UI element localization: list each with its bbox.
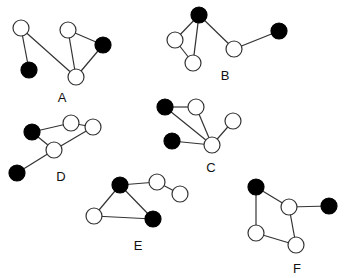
white-node [185,55,201,71]
graph-c: C [157,99,241,175]
white-node [86,208,102,224]
graph-label: F [293,261,301,276]
graph-label: E [134,238,143,253]
white-node [13,20,29,36]
black-node [24,124,40,140]
graph-d: D [9,115,101,184]
white-node [188,99,204,115]
black-node [164,133,180,149]
white-node [63,115,79,131]
black-node [95,37,111,53]
black-node [157,99,173,115]
graph-a: A [13,20,111,105]
black-node [191,7,207,23]
white-node [167,32,183,48]
graph-label: B [221,68,230,83]
graph-label: C [206,160,215,175]
white-node [225,113,241,129]
black-node [9,165,25,181]
graph-b: B [167,7,287,83]
graph-edge [94,216,153,219]
white-node [149,174,165,190]
white-node [248,225,264,241]
black-node [112,177,128,193]
black-node [321,198,337,214]
graph-e: E [86,174,188,253]
black-node [21,62,37,78]
white-node [226,41,242,57]
graph-label: A [58,90,67,105]
graph-label: D [56,169,65,184]
black-node [271,23,287,39]
white-node [60,22,76,38]
black-node [248,179,264,195]
white-node [68,69,84,85]
graph-f: F [248,179,337,276]
white-node [288,237,304,253]
white-node [172,186,188,202]
white-node [281,199,297,215]
white-node [46,142,62,158]
black-node [145,211,161,227]
graph-figure: ABCDEF [0,0,346,278]
white-node [85,119,101,135]
white-node [204,137,220,153]
